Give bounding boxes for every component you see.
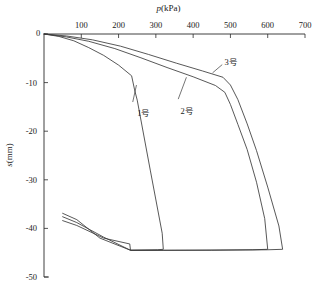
series-label-2: 2号 xyxy=(181,107,194,116)
x-tick-label: 0 xyxy=(36,29,40,38)
x-tick-label: 600 xyxy=(261,21,274,30)
x-axis-title: p(kPa) xyxy=(157,3,181,13)
y-tick-label: -40 xyxy=(0,224,37,233)
curve-series-1 xyxy=(44,34,163,250)
y-tick-label: -50 xyxy=(0,273,37,282)
x-tick-label: 300 xyxy=(150,21,163,30)
y-axis-unit: (mm) xyxy=(4,143,14,163)
load-settlement-chart: p(kPa) s(mm) 0100200300400500600700 -10-… xyxy=(0,0,314,289)
y-tick-label: -30 xyxy=(0,176,37,185)
x-tick-label: 100 xyxy=(75,21,88,30)
y-tick-label: -20 xyxy=(0,127,37,136)
x-tick-label: 200 xyxy=(112,21,125,30)
leader-line-3 xyxy=(213,65,223,73)
y-tick-label: -10 xyxy=(0,78,37,87)
y-axis-symbol: s xyxy=(4,163,14,167)
curve-series xyxy=(44,34,283,250)
y-axis-title: s(mm) xyxy=(4,132,14,178)
x-tick-label: 400 xyxy=(187,21,200,30)
series-label-3: 3号 xyxy=(225,58,238,67)
x-tick-label: 700 xyxy=(299,21,312,30)
leader-line-2 xyxy=(178,77,186,99)
chart-canvas xyxy=(0,0,314,289)
series-label-1: 1号 xyxy=(137,109,150,118)
x-axis-unit: (kPa) xyxy=(161,3,181,13)
x-tick-label: 500 xyxy=(224,21,237,30)
